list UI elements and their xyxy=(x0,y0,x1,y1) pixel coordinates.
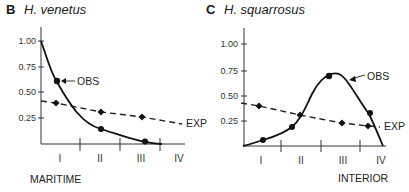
panel-c-obs-annotation: OBS xyxy=(349,70,389,82)
panel-b: B H. venetus 1.00 0.75 0.50 0.25 I II II… xyxy=(6,2,207,185)
panel-b-letter: B xyxy=(6,2,15,17)
panel-c-title: H. squarrosus xyxy=(224,2,305,17)
tick-label: 0.50 xyxy=(220,91,238,101)
category-label: II xyxy=(97,153,103,164)
panel-c-obs-line xyxy=(243,73,383,146)
tick-label: 0.75 xyxy=(18,62,36,72)
obs-label: OBS xyxy=(77,75,99,87)
panel-b-region-label: MARITIME xyxy=(30,173,81,185)
panel-c-obs-markers xyxy=(260,73,373,143)
category-label: I xyxy=(59,153,62,164)
tick-label: 1.00 xyxy=(18,36,36,46)
category-label: I xyxy=(260,155,263,166)
panel-c-y-ticks: 1.00 0.75 0.50 0.25 xyxy=(220,39,247,126)
panel-b-exp-label: EXP xyxy=(186,117,207,129)
tick-label: 1.00 xyxy=(220,39,238,49)
obs-label: OBS xyxy=(367,70,389,82)
panel-b-obs-annotation: OBS xyxy=(61,75,99,87)
tick-label: 0.75 xyxy=(220,66,238,76)
tick-label: 0.25 xyxy=(18,113,36,123)
panel-b-exp-line xyxy=(41,101,182,124)
panel-c: C H. squarrosus 1.00 0.75 0.50 0.25 I II… xyxy=(206,2,405,184)
category-label: III xyxy=(339,155,347,166)
panel-c-letter: C xyxy=(206,2,216,17)
panel-b-y-ticks: 1.00 0.75 0.50 0.25 xyxy=(18,36,44,123)
panel-b-x-ticks: I II III IV xyxy=(59,138,184,164)
category-label: IV xyxy=(174,153,184,164)
panel-c-exp-label: EXP xyxy=(384,120,405,132)
tick-label: 0.50 xyxy=(18,87,36,97)
panel-c-exp-markers xyxy=(256,103,372,130)
panel-b-title: H. venetus xyxy=(24,2,87,17)
figure: B H. venetus 1.00 0.75 0.50 0.25 I II II… xyxy=(0,0,409,192)
panel-c-region-label: INTERIOR xyxy=(338,172,389,184)
tick-label: 0.25 xyxy=(220,116,238,126)
category-label: II xyxy=(298,155,304,166)
category-label: IV xyxy=(376,155,386,166)
panel-b-exp-markers xyxy=(53,100,146,121)
category-label: III xyxy=(137,153,145,164)
panel-c-x-ticks: I II III IV xyxy=(260,140,386,166)
